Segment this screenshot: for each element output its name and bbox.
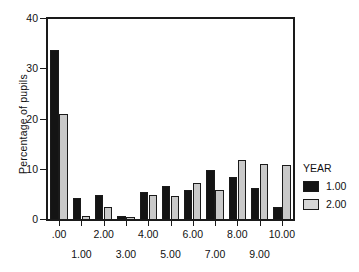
y-axis-tick [40,169,46,170]
x-axis-tick [171,221,172,226]
x-axis-tick-label: 7.00 [193,248,237,260]
legend-swatch-icon [303,181,319,192]
bar[interactable] [126,217,134,220]
x-axis-tick [81,221,82,226]
x-axis-tick [148,221,149,226]
bar[interactable] [273,207,281,220]
legend: YEAR 1.00 2.00 [303,162,359,217]
x-axis-tick-label: .00 [37,228,81,240]
y-axis-tick [40,119,46,120]
x-axis-tick-label: 1.00 [59,248,103,260]
x-axis-tick [282,221,283,226]
legend-item-label: 2.00 [326,199,346,210]
bar-group [159,19,181,220]
x-axis-tick [59,221,60,226]
bar[interactable] [149,195,157,220]
x-axis-tick-label: 2.00 [82,228,126,240]
x-axis-tick-label: 3.00 [104,248,148,260]
x-axis-tick [193,221,194,226]
bar[interactable] [229,177,237,220]
bar[interactable] [162,186,170,220]
x-axis-tick-label: 10.00 [260,228,304,240]
bar[interactable] [50,50,58,220]
bar-group [226,19,248,220]
y-axis-tick [40,219,46,220]
bar-group [70,19,92,220]
bar[interactable] [184,190,192,220]
y-axis-tick-label: 0 [2,214,38,224]
x-axis-tick-label: 8.00 [215,228,259,240]
bar-group [137,19,159,220]
x-axis-tick [237,221,238,226]
bar[interactable] [238,160,246,220]
y-axis-tick [40,18,46,19]
bar[interactable] [95,195,103,220]
y-axis-title: Percentage of pupils [17,49,29,199]
bar[interactable] [282,165,290,220]
x-axis-tick-label: 9.00 [238,248,282,260]
x-axis-labels: .001.002.003.004.005.006.007.008.009.001… [0,228,359,272]
bar-group [248,19,270,220]
x-axis-tick [260,221,261,226]
bar[interactable] [140,192,148,220]
bar-group [182,19,204,220]
bar[interactable] [59,114,67,220]
x-axis-tick [126,221,127,226]
bar[interactable] [171,196,179,220]
bar-group [204,19,226,220]
bar[interactable] [260,164,268,220]
legend-item-label: 1.00 [326,181,346,192]
y-axis-tick-label: 40 [2,13,38,23]
bar-group [48,19,70,220]
bar[interactable] [215,190,223,220]
bar[interactable] [117,216,125,220]
x-axis-tick-label: 5.00 [149,248,193,260]
bar-chart: 010203040 Percentage of pupils .001.002.… [0,0,359,272]
bar[interactable] [82,216,90,220]
legend-title: YEAR [303,162,359,174]
bar[interactable] [73,198,81,220]
bars-container [48,19,293,220]
legend-item[interactable]: 2.00 [303,199,359,210]
bar-group [271,19,293,220]
y-axis-tick [40,68,46,69]
x-axis-tick-label: 4.00 [126,228,170,240]
bar[interactable] [206,170,214,220]
x-axis-tick [104,221,105,226]
legend-item[interactable]: 1.00 [303,181,359,192]
x-axis-tick [215,221,216,226]
bar[interactable] [251,188,259,220]
legend-swatch-icon [303,199,319,210]
bar[interactable] [104,207,112,220]
x-axis-tick-label: 6.00 [171,228,215,240]
bar[interactable] [193,183,201,220]
bar-group [115,19,137,220]
bar-group [93,19,115,220]
